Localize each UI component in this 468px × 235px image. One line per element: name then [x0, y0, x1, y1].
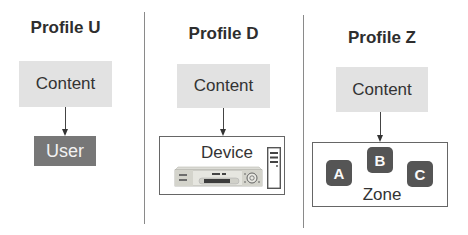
user-box: User — [34, 136, 96, 166]
dvd-player-icon — [174, 164, 263, 188]
content-box: Content — [177, 64, 270, 108]
zone-label: Zone — [355, 185, 409, 205]
arrow — [65, 107, 66, 129]
zone-member-b: B — [367, 147, 393, 173]
content-box: Content — [336, 67, 428, 112]
tower-computer-icon — [267, 147, 281, 189]
panel-divider — [144, 12, 145, 224]
content-box: Content — [19, 61, 112, 107]
panel-divider — [303, 15, 304, 228]
panel-title: Profile D — [177, 24, 270, 44]
arrow-head-icon — [377, 135, 383, 142]
zone-member-c: C — [407, 161, 433, 187]
panel-title: Profile U — [19, 18, 112, 38]
arrow — [223, 108, 224, 129]
arrow-head-icon — [220, 129, 226, 136]
arrow-head-icon — [62, 129, 68, 136]
device-label: Device — [190, 143, 264, 163]
arrow — [380, 112, 381, 135]
panel-title: Profile Z — [336, 28, 428, 48]
zone-member-a: A — [326, 160, 352, 186]
